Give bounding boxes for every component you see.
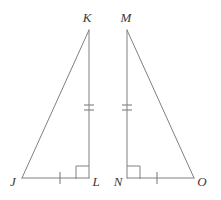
congruent-right-triangles-diagram: K M J L N O xyxy=(0,0,221,200)
segment-mo-hypotenuse xyxy=(127,30,194,178)
vertex-label-o: O xyxy=(197,174,207,189)
vertex-label-j: J xyxy=(10,174,17,189)
vertex-labels: K M J L N O xyxy=(10,10,207,189)
triangle-jkl xyxy=(22,30,89,178)
triangle-mno xyxy=(127,30,194,178)
vertex-label-k: K xyxy=(82,10,93,25)
right-angle-mark-l xyxy=(76,166,89,179)
vertex-label-m: M xyxy=(120,10,133,25)
geometry-figure-container: K M J L N O xyxy=(0,0,221,200)
vertex-label-n: N xyxy=(113,174,124,189)
vertex-label-l: L xyxy=(91,174,99,189)
right-angle-marks xyxy=(76,166,140,179)
segment-jk-hypotenuse xyxy=(22,30,89,178)
congruence-tick-marks xyxy=(60,105,157,184)
right-angle-mark-n xyxy=(127,166,140,179)
